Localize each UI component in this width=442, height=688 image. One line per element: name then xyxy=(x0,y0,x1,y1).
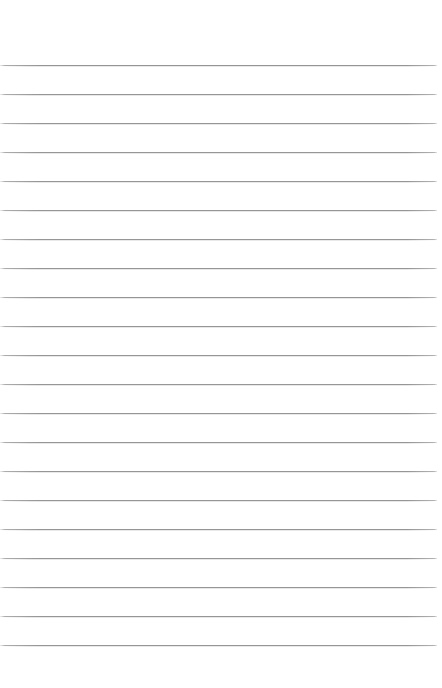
writing-row xyxy=(0,443,442,471)
writing-row xyxy=(0,269,442,297)
writing-row xyxy=(0,530,442,558)
writing-row xyxy=(0,385,442,413)
writing-row xyxy=(0,356,442,384)
writing-row xyxy=(0,559,442,587)
writing-row xyxy=(0,211,442,239)
writing-row xyxy=(0,501,442,529)
writing-row xyxy=(0,298,442,326)
lined-paper-page xyxy=(0,0,442,688)
writing-row xyxy=(0,66,442,94)
ruled-line-stack xyxy=(0,0,442,688)
writing-row xyxy=(0,472,442,500)
writing-row xyxy=(0,414,442,442)
ruled-line xyxy=(0,645,437,646)
writing-row xyxy=(0,182,442,210)
writing-row xyxy=(0,327,442,355)
writing-row xyxy=(0,95,442,123)
writing-row xyxy=(0,124,442,152)
writing-row xyxy=(0,240,442,268)
writing-row xyxy=(0,153,442,181)
writing-row xyxy=(0,617,442,645)
writing-row xyxy=(0,588,442,616)
